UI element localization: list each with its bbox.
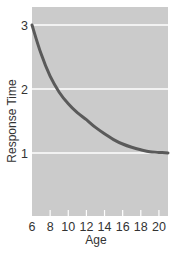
x-tick-label: 16 [116,220,130,234]
x-tick-label: 18 [134,220,148,234]
x-tick-label: 14 [98,220,112,234]
x-tick-label: 6 [29,220,36,234]
x-tick-label: 8 [47,220,54,234]
x-tick-label: 12 [79,220,93,234]
y-axis-title: Response Time [5,79,19,163]
y-tick-label: 2 [21,83,28,97]
x-tick-label: 20 [152,220,166,234]
response-time-chart: 123 68101214161820 Age Response Time [0,0,173,254]
y-tick-label: 1 [21,147,28,161]
plot-area [32,7,168,216]
y-tick-labels: 123 [21,19,28,161]
y-tick-label: 3 [21,19,28,33]
x-tick-label: 10 [61,220,75,234]
x-tick-labels: 68101214161820 [29,220,166,234]
x-axis-title: Age [85,233,107,247]
